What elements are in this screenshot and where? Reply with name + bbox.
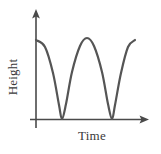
y-axis-label-text: Height	[5, 59, 21, 96]
height-time-curve	[36, 38, 135, 119]
y-axis-label: Height	[0, 0, 26, 154]
x-axis-label: Time	[36, 128, 148, 144]
wave-diagram-figure: Height Time	[0, 0, 161, 154]
